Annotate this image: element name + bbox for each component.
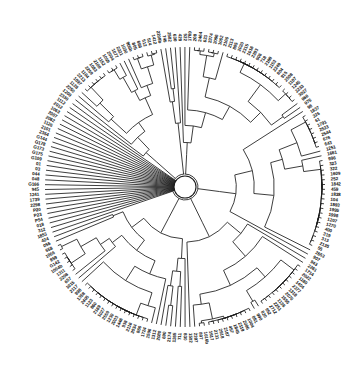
leaf-label: 1265 [172,332,178,343]
tree-branch [209,322,210,325]
phylogenetic-tree-figure: 4295221769208246462323742096106221062113… [0,0,358,379]
leaf-label: 048 [32,176,40,181]
tree-branch [213,50,214,53]
tree-branch [320,161,323,162]
circular-dendrogram-svg: 4295221769208246462323742096106221062113… [0,0,358,379]
leaf-label: G166 [28,182,39,187]
leaf-label: 1739 [30,197,41,203]
leaf-label: 830 [183,333,188,341]
leaf-label: 711 [177,332,182,340]
tree-branch [320,213,323,214]
leaf-label: 1241 [29,192,40,198]
leaf-label: 2582 [167,32,173,43]
leaf-label: 690 [161,331,167,340]
tree-branch [208,49,209,52]
leaf-label: 630 [172,34,178,42]
tree-branch [213,321,214,324]
leaf-label: 945 [32,187,40,192]
leaf-label: 2174 [166,331,172,342]
tree-branch [156,50,157,53]
leaf-label: 044 [32,171,40,177]
